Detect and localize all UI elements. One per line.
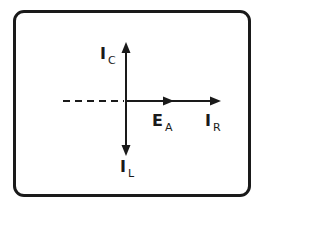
- ic-label: IC: [100, 46, 116, 62]
- ic-label-main: I: [100, 44, 106, 63]
- il-label-sub: L: [128, 167, 134, 180]
- ea-label-sub: A: [165, 121, 173, 134]
- ir-label-sub: R: [213, 121, 221, 134]
- ir-label: IR: [205, 113, 221, 129]
- ic-label-sub: C: [108, 54, 116, 67]
- ir-label-main: I: [205, 111, 211, 130]
- il-label-main: I: [120, 157, 126, 176]
- il-arrowhead-icon: [122, 145, 131, 156]
- ic-arrowhead-icon: [122, 42, 131, 53]
- ea-label: EA: [152, 113, 172, 129]
- ir-arrowhead-icon: [210, 97, 221, 106]
- ea-label-main: E: [152, 111, 163, 130]
- ea-arrowhead-icon: [163, 97, 174, 106]
- il-label: IL: [120, 159, 134, 175]
